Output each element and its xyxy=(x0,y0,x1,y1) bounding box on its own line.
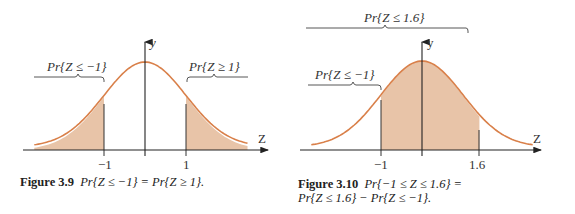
figure-3-10: y Z −1 1.6 Pr{Z ≤ 1.6} Pr{Z ≤ −1} xyxy=(300,10,541,172)
brace-pr-z-le-minus1 xyxy=(308,82,381,90)
y-axis-label: y xyxy=(427,35,434,50)
x-axis-label: Z xyxy=(533,131,541,146)
brace-label-right: Pr{Z ≥ 1} xyxy=(188,59,241,74)
brace-right xyxy=(187,74,248,82)
tick-label-minus1: −1 xyxy=(374,157,388,172)
tick-label-minus1: −1 xyxy=(98,157,112,172)
brace-left xyxy=(34,74,104,82)
caption-text-line1: Pr{−1 ≤ Z ≤ 1.6} = xyxy=(364,177,462,191)
tick-label-plus1: 1 xyxy=(183,157,190,172)
brace-label-pr-z-le-minus1: Pr{Z ≤ −1} xyxy=(314,67,375,82)
caption-text-line2: Pr{Z ≤ 1.6} − Pr{Z ≤ −1}. xyxy=(298,191,431,205)
caption-figure-3-10: Figure 3.10 Pr{−1 ≤ Z ≤ 1.6} = Pr{Z ≤ 1.… xyxy=(298,177,538,205)
shaded-region-minus1-to-1.6 xyxy=(381,61,479,150)
x-axis-label: Z xyxy=(258,131,266,146)
caption-label: Figure 3.9 xyxy=(20,175,74,189)
caption-label: Figure 3.10 xyxy=(298,177,358,191)
y-axis-label: y xyxy=(148,35,156,50)
shaded-right-tail xyxy=(186,97,248,150)
figure-3-9: y Z −1 1 Pr{Z ≤ −1} Pr{Z ≥ 1} xyxy=(23,35,268,172)
brace-pr-z-le-1.6 xyxy=(306,25,468,33)
caption-figure-3-9: Figure 3.9 Pr{Z ≤ −1} = Pr{Z ≥ 1}. xyxy=(20,175,204,189)
brace-label-left: Pr{Z ≤ −1} xyxy=(46,59,107,74)
tick-label-1.6: 1.6 xyxy=(469,157,486,172)
brace-label-pr-z-le-1.6: Pr{Z ≤ 1.6} xyxy=(363,10,425,25)
caption-text: Pr{Z ≤ −1} = Pr{Z ≥ 1}. xyxy=(80,175,204,189)
